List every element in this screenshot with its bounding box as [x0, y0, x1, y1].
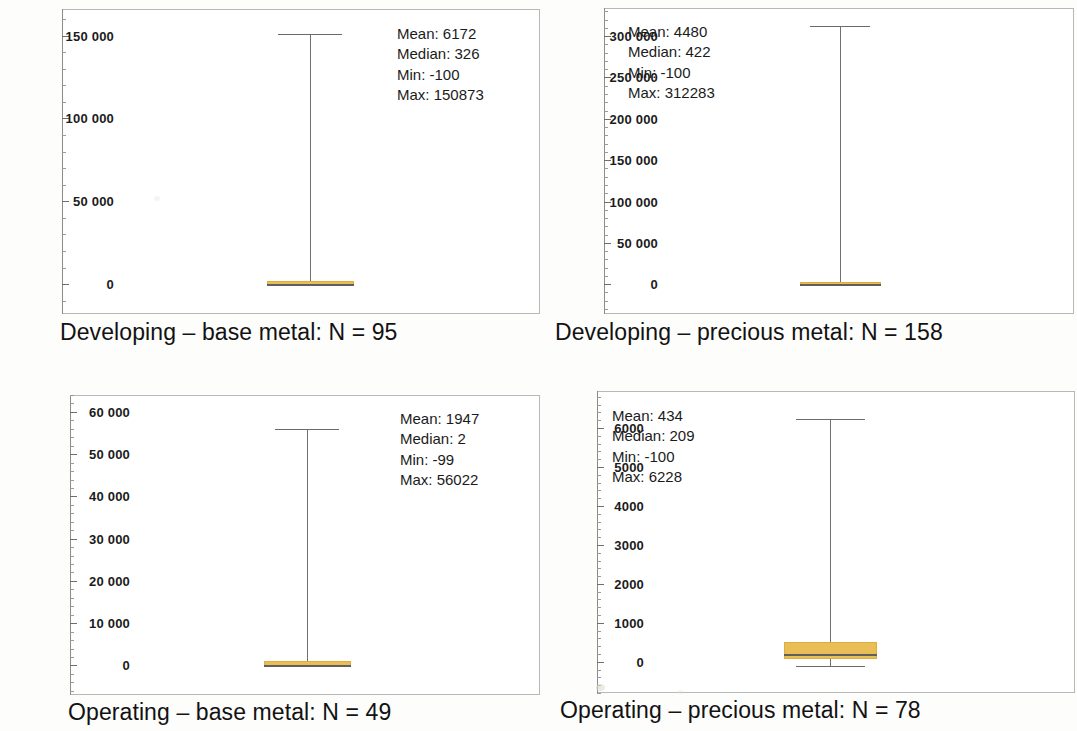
whisker-cap-lower: [796, 666, 865, 667]
y-axis-tick-label: 150 000: [610, 153, 658, 168]
stat-min: Min: -100: [612, 447, 695, 467]
y-axis-major-tick: [70, 412, 77, 413]
y-axis-minor-tick: [604, 168, 608, 169]
stats-annotation: Mean: 434 Median: 209 Min: -100 Max: 622…: [612, 406, 695, 488]
median-line: [784, 654, 877, 656]
y-axis-tick-label: 0: [123, 658, 130, 673]
y-axis-minor-tick: [597, 483, 601, 484]
boxplot-glyph: [240, 9, 380, 314]
y-axis-major-tick: [604, 243, 611, 244]
y-axis-tick-label: 30 000: [89, 531, 130, 546]
stat-mean: Mean: 434: [612, 406, 695, 426]
y-axis-minor-tick: [604, 111, 608, 112]
y-axis-minor-tick: [597, 677, 601, 678]
y-axis-minor-tick: [604, 268, 608, 269]
median-line: [800, 284, 881, 286]
y-axis-minor-tick: [604, 259, 608, 260]
y-axis-minor-tick: [604, 276, 608, 277]
panel-developing-base-metal: 050 000100 000150 000 Mean: 6172 Median:…: [0, 0, 540, 362]
y-axis-line: [70, 395, 71, 695]
y-axis-minor-tick: [597, 631, 601, 632]
whisker-cap-upper: [796, 419, 865, 420]
figure-page: 050 000100 000150 000 Mean: 6172 Median:…: [0, 0, 1077, 731]
y-axis-minor-tick: [597, 436, 601, 437]
y-axis-minor-tick: [597, 498, 601, 499]
whisker-line: [307, 429, 308, 666]
y-axis-minor-tick: [597, 576, 601, 577]
stat-max: Max: 150873: [397, 85, 484, 105]
y-axis-major-tick: [70, 623, 77, 624]
whisker-cap-upper: [275, 429, 339, 430]
y-axis-tick-label: 150 000: [66, 28, 114, 43]
y-axis-minor-tick: [604, 86, 608, 87]
y-axis-minor-tick: [62, 168, 66, 169]
stat-median: Median: 422: [628, 42, 715, 62]
stat-min: Min: -99: [400, 450, 479, 470]
stats-annotation: Mean: 4480 Median: 422 Min: -100 Max: 31…: [628, 22, 715, 104]
y-axis-minor-tick: [597, 522, 601, 523]
y-axis-minor-tick: [62, 52, 66, 53]
y-axis-minor-tick: [604, 292, 608, 293]
y-axis-tick-label: 2000: [614, 576, 644, 591]
y-axis-minor-tick: [70, 640, 74, 641]
y-axis-tick-label: 50 000: [89, 447, 130, 462]
y-axis-minor-tick: [70, 522, 74, 523]
y-axis-minor-tick: [604, 177, 608, 178]
y-axis-major-tick: [70, 581, 77, 582]
y-axis-minor-tick: [597, 646, 601, 647]
panel-operating-precious-metal: 0100020003000400050006000 Mean: 434 Medi…: [540, 370, 1077, 731]
y-axis-tick-label: 40 000: [89, 489, 130, 504]
boxplot-glyph: [237, 395, 377, 695]
y-axis-major-tick: [70, 454, 77, 455]
y-axis-minor-tick: [597, 553, 601, 554]
y-axis-minor-tick: [70, 403, 74, 404]
y-axis-minor-tick: [604, 94, 608, 95]
stat-median: Median: 326: [397, 44, 484, 64]
y-axis-minor-tick: [597, 561, 601, 562]
stat-max: Max: 312283: [628, 83, 715, 103]
y-axis-minor-tick: [62, 19, 66, 20]
y-axis-minor-tick: [62, 301, 66, 302]
y-axis-minor-tick: [604, 193, 608, 194]
y-axis-tick-label: 0: [107, 277, 114, 292]
y-axis-minor-tick: [604, 251, 608, 252]
scan-artifact: [596, 684, 605, 691]
stat-min: Min: -100: [397, 65, 484, 85]
y-axis-major-tick: [70, 496, 77, 497]
y-axis-major-tick: [70, 539, 77, 540]
y-axis-major-tick: [597, 662, 604, 663]
y-axis-minor-tick: [597, 607, 601, 608]
stat-max: Max: 6228: [612, 467, 695, 487]
y-axis: 010 00020 00030 00040 00050 00060 000: [70, 395, 140, 695]
y-axis-minor-tick: [597, 475, 601, 476]
y-axis-minor-tick: [62, 218, 66, 219]
stat-mean: Mean: 1947: [400, 409, 479, 429]
y-axis-minor-tick: [597, 397, 601, 398]
boxplot-glyph: [775, 8, 905, 314]
y-axis-major-tick: [70, 665, 77, 666]
whisker-line: [830, 419, 831, 666]
y-axis-minor-tick: [597, 451, 601, 452]
y-axis-minor-tick: [70, 691, 74, 692]
whisker-line: [840, 26, 841, 284]
y-axis-minor-tick: [604, 28, 608, 29]
whisker-cap-upper: [278, 34, 342, 35]
y-axis-minor-tick: [604, 44, 608, 45]
y-axis-minor-tick: [62, 234, 66, 235]
panel-developing-precious-metal: 050 000100 000150 000200 000250 000300 0…: [540, 0, 1077, 362]
y-axis-tick-label: 200 000: [610, 111, 658, 126]
stat-max: Max: 56022: [400, 470, 479, 490]
y-axis-minor-tick: [70, 657, 74, 658]
y-axis: 050 000100 000150 000: [62, 9, 124, 314]
y-axis-minor-tick: [597, 420, 601, 421]
panel-caption: Developing – precious metal: N = 158: [555, 319, 943, 346]
y-axis-minor-tick: [70, 632, 74, 633]
y-axis-tick-label: 50 000: [617, 235, 658, 250]
y-axis-minor-tick: [70, 513, 74, 514]
y-axis-minor-tick: [597, 412, 601, 413]
y-axis-minor-tick: [62, 85, 66, 86]
y-axis-tick-label: 50 000: [73, 194, 114, 209]
y-axis-minor-tick: [62, 185, 66, 186]
y-axis-minor-tick: [70, 556, 74, 557]
y-axis-tick-label: 1000: [614, 615, 644, 630]
